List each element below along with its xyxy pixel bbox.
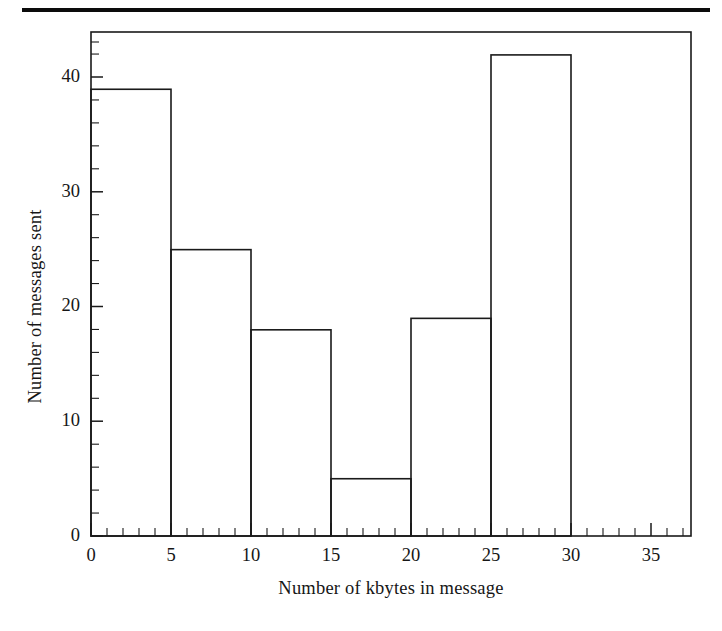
bar-10-15: [251, 330, 331, 536]
ytick-label-40: 40: [40, 66, 80, 87]
ytick-label-30: 30: [40, 181, 80, 202]
bar-0-5: [91, 89, 171, 536]
histogram-figure: 0 10 20 30 40 0 5 10 15 20 25 30 35 Numb…: [0, 0, 722, 631]
ytick-label-10: 10: [40, 410, 80, 431]
bar-5-10: [171, 250, 251, 536]
xtick-label-0: 0: [71, 545, 111, 566]
plot-area: [0, 0, 722, 631]
y-minor-ticks: [91, 42, 99, 513]
x-minor-ticks: [107, 528, 683, 536]
ytick-label-0: 0: [40, 525, 80, 546]
bar-15-20: [331, 479, 411, 536]
histogram-bars: [91, 55, 571, 536]
bar-25-30: [491, 55, 571, 536]
xtick-label-35: 35: [631, 545, 671, 566]
ytick-label-20: 20: [40, 295, 80, 316]
xtick-label-30: 30: [551, 545, 591, 566]
bar-20-25: [411, 318, 491, 536]
xtick-label-15: 15: [311, 545, 351, 566]
plot-frame: [91, 32, 691, 536]
x-major-ticks: [91, 523, 651, 536]
xtick-label-5: 5: [151, 545, 191, 566]
xtick-label-10: 10: [231, 545, 271, 566]
y-axis-title: Number of messages sent: [25, 177, 46, 437]
x-axis-title: Number of kbytes in message: [91, 578, 691, 599]
xtick-label-25: 25: [471, 545, 511, 566]
xtick-label-20: 20: [391, 545, 431, 566]
